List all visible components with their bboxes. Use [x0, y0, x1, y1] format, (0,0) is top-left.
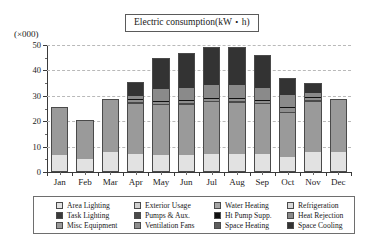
legend-label: Exterior Usage: [145, 202, 191, 210]
bar-segment: [203, 154, 221, 172]
legend-label: Space Heating: [225, 222, 269, 230]
bar-segment: [152, 105, 170, 155]
x-axis-label-mar: Mar: [103, 177, 118, 187]
bar-segment: [178, 105, 196, 155]
bar-segment: [254, 104, 272, 154]
x-axis-tick: [199, 172, 200, 176]
bar-segment: [127, 99, 145, 100]
legend-item[interactable]: Space Cooling: [287, 221, 343, 230]
bar-segment: [203, 99, 221, 101]
bar-segment: [279, 78, 297, 95]
x-axis-label-apr: Apr: [129, 177, 143, 187]
x-axis-tick: [300, 172, 301, 176]
legend-column: Area LightingTask LightingMisc Equipment: [56, 201, 117, 231]
legend-item[interactable]: Ht Pump Supp.: [214, 211, 272, 220]
bar-segment: [254, 103, 272, 105]
bar-oct[interactable]: [279, 78, 297, 172]
legend-item[interactable]: Task Lighting: [56, 211, 117, 220]
bar-jun[interactable]: [178, 53, 196, 172]
x-axis-minor-tick: [338, 172, 339, 175]
bar-segment: [254, 100, 272, 101]
chart-legend: Area LightingTask LightingMisc Equipment…: [33, 196, 355, 234]
y-axis-label: 20: [33, 117, 42, 126]
bar-segment: [304, 152, 322, 172]
bar-segment: [178, 103, 196, 105]
y-axis-minor-tick: [45, 159, 47, 160]
legend-swatch: [56, 202, 63, 209]
legend-column: RefrigerationHeat RejectionSpace Cooling: [287, 201, 343, 231]
bar-segment: [304, 100, 322, 102]
bar-dec[interactable]: [330, 99, 348, 172]
x-axis-tick: [351, 172, 352, 176]
bar-segment: [254, 154, 272, 172]
bar-segment: [102, 99, 120, 152]
bar-sep[interactable]: [254, 55, 272, 172]
y-axis-minor-tick: [45, 83, 47, 84]
bar-aug[interactable]: [228, 47, 246, 172]
legend-item[interactable]: Misc Equipment: [56, 221, 117, 230]
legend-item[interactable]: Water Heating: [214, 201, 272, 210]
x-axis-minor-tick: [161, 172, 162, 175]
bar-segment: [203, 102, 221, 154]
bar-feb[interactable]: [76, 120, 94, 172]
x-axis-label-sep: Sep: [256, 177, 270, 187]
bar-segment: [127, 104, 145, 154]
bar-segment: [279, 113, 297, 156]
bar-segment: [152, 101, 170, 102]
x-axis-label-jan: Jan: [54, 177, 66, 187]
bar-segment: [228, 154, 246, 172]
legend-swatch: [56, 222, 63, 229]
bar-segment: [279, 112, 297, 114]
chart-container: (×000) Electric consumption(kW・h) 010203…: [0, 0, 366, 240]
x-axis-label-feb: Feb: [78, 177, 92, 187]
legend-label: Area Lighting: [67, 202, 110, 210]
y-axis-tick: [43, 45, 47, 46]
legend-item[interactable]: Exterior Usage: [134, 201, 195, 210]
x-axis-tick: [275, 172, 276, 176]
legend-label: Misc Equipment: [67, 222, 117, 230]
bar-segment: [51, 155, 69, 172]
legend-item[interactable]: Ventilation Fans: [134, 221, 195, 230]
y-axis-minor-tick: [45, 109, 47, 110]
bar-segment: [304, 83, 322, 93]
bar-segment: [152, 89, 170, 101]
bar-segment: [279, 95, 297, 107]
bar-segment: [279, 107, 297, 108]
legend-item[interactable]: Pumps & Aux.: [134, 211, 195, 220]
bar-may[interactable]: [152, 58, 170, 172]
legend-item[interactable]: Heat Rejection: [287, 211, 343, 220]
legend-item[interactable]: Area Lighting: [56, 201, 117, 210]
y-axis-tick: [43, 147, 47, 148]
legend-column: Water HeatingHt Pump Supp.Space Heating: [214, 201, 272, 231]
legend-label: Task Lighting: [67, 212, 109, 220]
x-axis-minor-tick: [60, 172, 61, 175]
y-axis-label: 10: [33, 143, 42, 152]
bar-segment: [330, 99, 348, 152]
x-axis-tick: [72, 172, 73, 176]
legend-item[interactable]: Refrigeration: [287, 201, 343, 210]
y-axis-label: 30: [33, 92, 42, 101]
y-axis-units-label: (×000): [14, 29, 39, 39]
bar-mar[interactable]: [102, 99, 120, 172]
y-axis-tick: [43, 70, 47, 71]
bar-segment: [127, 100, 145, 102]
chart-title: Electric consumption(kW・h): [125, 14, 259, 32]
y-axis-label: 50: [33, 41, 42, 50]
y-axis-label: 0: [37, 168, 41, 177]
bar-jul[interactable]: [203, 47, 221, 172]
x-axis-tick: [224, 172, 225, 176]
bar-segment: [76, 120, 94, 159]
bar-segment: [254, 88, 272, 100]
bar-segment: [203, 85, 221, 98]
bar-apr[interactable]: [127, 82, 145, 172]
x-axis-tick: [326, 172, 327, 176]
bar-jan[interactable]: [51, 107, 69, 172]
bar-segment: [178, 100, 196, 101]
x-axis-minor-tick: [288, 172, 289, 175]
x-axis-minor-tick: [237, 172, 238, 175]
legend-item[interactable]: Space Heating: [214, 221, 272, 230]
x-axis-label-may: May: [153, 177, 170, 187]
bar-nov[interactable]: [304, 83, 322, 172]
legend-swatch: [56, 212, 63, 219]
bar-segment: [127, 102, 145, 104]
